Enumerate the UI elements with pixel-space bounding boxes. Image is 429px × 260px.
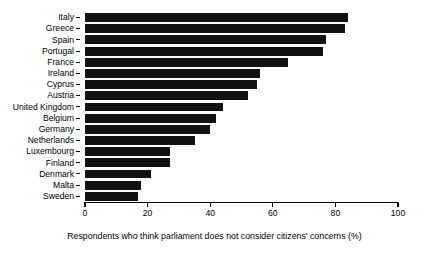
y-axis-tick-label: Portugal [42,47,75,56]
bar-chart: ItalyGreeceSpainPortugalFranceIrelandCyp… [0,0,429,260]
y-axis-tick-netherlands: Netherlands [0,135,80,146]
bar-row [85,180,398,191]
y-axis-tick-mark [76,62,80,63]
y-axis-tick-mark [76,51,80,52]
plot-area [85,12,398,202]
y-axis-tick-malta: Malta [0,180,80,191]
bar [85,13,348,22]
y-axis-tick-mark [76,185,80,186]
y-axis-tick-mark [76,162,80,163]
y-axis-tick-finland: Finland [0,157,80,168]
bar-row [85,12,398,23]
bar-row [85,135,398,146]
y-axis-tick-mark [76,73,80,74]
bar [85,35,326,44]
bar [85,24,345,33]
bar [85,80,257,89]
y-axis-tick-label: Finland [46,159,75,168]
y-axis-tick-label: Belgium [43,114,75,123]
y-axis-tick-ireland: Ireland [0,68,80,79]
x-axis-tick-label: 100 [391,208,405,218]
bar [85,69,260,78]
bar [85,181,141,190]
bar [85,125,210,134]
y-axis-tick-sweden: Sweden [0,191,80,202]
y-axis-tick-label: Cyprus [47,80,75,89]
y-axis-tick-label: Spain [52,36,75,45]
bar-row [85,57,398,68]
y-axis-tick-label: Luxembourg [26,147,75,156]
x-axis-tick-mark [397,202,398,207]
bar-row [85,168,398,179]
bar [85,47,323,56]
bar-row [85,146,398,157]
y-axis-tick-luxembourg: Luxembourg [0,146,80,157]
y-axis-tick-mark [76,95,80,96]
x-axis-tick-label: 40 [205,208,215,218]
x-axis-line: 020406080100 [85,202,398,203]
x-axis-tick-label: 20 [143,208,153,218]
bar-row [85,90,398,101]
y-axis-tick-italy: Italy [0,12,80,23]
y-axis-tick-label: Netherlands [28,136,75,145]
bar-row [85,191,398,202]
y-axis-tick-mark [76,28,80,29]
bar [85,103,223,112]
x-axis-tick-label: 60 [268,208,278,218]
y-axis-tick-mark [76,173,80,174]
bar-row [85,113,398,124]
x-axis-title: Respondents who think parliament does no… [0,231,429,241]
y-axis-tick-label: United Kingdom [13,103,75,112]
bar [85,170,151,179]
y-axis-tick-mark [76,84,80,85]
y-axis-tick-spain: Spain [0,34,80,45]
y-axis-tick-france: France [0,57,80,68]
bar [85,91,248,100]
y-axis-tick-austria: Austria [0,90,80,101]
bar-row [85,23,398,34]
y-axis-tick-label: Ireland [48,69,75,78]
x-axis-tick-mark [147,202,148,207]
bar [85,192,138,201]
y-axis-tick-label: Italy [58,13,75,22]
y-axis-tick-label: Sweden [43,192,75,201]
y-axis-tick-label: Austria [47,91,75,100]
y-axis-tick-united-kingdom: United Kingdom [0,101,80,112]
y-axis-tick-belgium: Belgium [0,113,80,124]
bar [85,158,170,167]
x-axis-tick-mark [335,202,336,207]
x-axis-tick-label: 0 [83,208,88,218]
y-axis-tick-germany: Germany [0,124,80,135]
bar-row [85,101,398,112]
x-axis-tick-mark [84,202,85,207]
bar [85,58,288,67]
bar [85,136,195,145]
bar-row [85,124,398,135]
bar-row [85,79,398,90]
y-axis-tick-mark [76,140,80,141]
y-axis-tick-mark [76,129,80,130]
y-axis-tick-mark [76,106,80,107]
bar-row [85,68,398,79]
x-axis-tick-mark [210,202,211,207]
y-axis-tick-label: Greece [46,24,75,33]
y-axis-tick-mark [76,39,80,40]
y-axis-tick-label: Germany [39,125,75,134]
y-axis-tick-mark [76,196,80,197]
y-axis-category-labels: ItalyGreeceSpainPortugalFranceIrelandCyp… [0,12,80,202]
bar [85,114,216,123]
bar-row [85,46,398,57]
y-axis-tick-denmark: Denmark [0,168,80,179]
y-axis-tick-mark [76,118,80,119]
x-axis-tick-label: 80 [331,208,341,218]
y-axis-tick-mark [76,17,80,18]
y-axis-tick-greece: Greece [0,23,80,34]
bar-row [85,157,398,168]
bar-row [85,34,398,45]
y-axis-tick-mark [76,151,80,152]
bar [85,147,170,156]
y-axis-tick-cyprus: Cyprus [0,79,80,90]
y-axis-tick-label: Malta [53,181,75,190]
y-axis-tick-label: Denmark [39,170,75,179]
y-axis-tick-label: France [47,58,75,67]
